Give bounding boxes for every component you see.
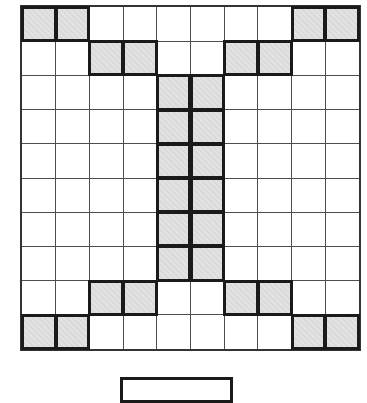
- shaded-cell: [223, 40, 259, 76]
- shaded-cell: [223, 280, 259, 316]
- shaded-cell: [122, 280, 158, 316]
- shaded-cell: [190, 245, 226, 281]
- shaded-cell: [156, 143, 192, 179]
- shaded-cell: [156, 211, 192, 247]
- shaded-cell: [55, 314, 91, 350]
- shaded-cell: [190, 109, 226, 145]
- shaded-cell: [324, 314, 360, 350]
- shaded-cell: [156, 177, 192, 213]
- shaded-cell: [257, 280, 293, 316]
- shaded-cell: [190, 211, 226, 247]
- pattern-grid: [20, 5, 361, 351]
- answer-box: [120, 377, 233, 403]
- shaded-cell: [21, 6, 57, 42]
- shaded-cell: [324, 6, 360, 42]
- shaded-cell: [88, 40, 124, 76]
- shaded-cell: [156, 109, 192, 145]
- shaded-cell: [156, 74, 192, 110]
- shaded-cell: [55, 6, 91, 42]
- shaded-cell: [122, 40, 158, 76]
- shaded-cell: [156, 245, 192, 281]
- shaded-cell: [291, 314, 327, 350]
- shaded-cell: [88, 280, 124, 316]
- shaded-cell: [190, 74, 226, 110]
- shaded-cell: [190, 143, 226, 179]
- shaded-cell: [291, 6, 327, 42]
- shaded-cell: [21, 314, 57, 350]
- shaded-cell: [190, 177, 226, 213]
- shaded-cell: [257, 40, 293, 76]
